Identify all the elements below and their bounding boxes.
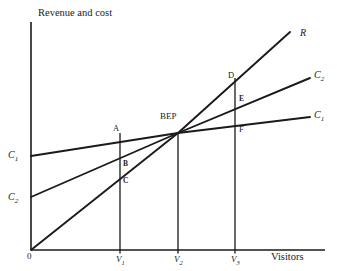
point-label-E: E <box>239 95 244 103</box>
point-label-D: D <box>228 71 234 80</box>
curve-label-left-C2: C2 <box>8 192 18 205</box>
point-label-F: F <box>239 125 244 134</box>
x-tick-label-2: V2 <box>174 255 183 266</box>
x-axis-title: Visitors <box>271 252 304 263</box>
series-line-C2 <box>31 78 310 197</box>
y-axis-title: Revenue and cost <box>38 8 112 19</box>
point-label-BEP: BEP <box>160 112 177 121</box>
break-even-chart: Revenue and cost Visitors 0 V1V2V3RC2C2C… <box>0 0 337 271</box>
point-label-C: C <box>123 177 128 185</box>
curve-label-right-C1: C1 <box>314 110 324 123</box>
point-label-B: B <box>123 160 128 168</box>
x-tick-label-3: V3 <box>231 255 240 266</box>
x-tick-label-1: V1 <box>116 255 125 266</box>
chart-canvas <box>0 0 337 271</box>
vertical-guide-lines <box>120 78 235 250</box>
point-label-A: A <box>113 124 119 133</box>
curve-label-left-C1: C1 <box>8 150 18 163</box>
origin-label: 0 <box>27 252 32 261</box>
curve-label-right-R: R <box>300 28 306 38</box>
curve-label-right-C2: C2 <box>314 70 324 83</box>
series-lines <box>31 32 310 250</box>
